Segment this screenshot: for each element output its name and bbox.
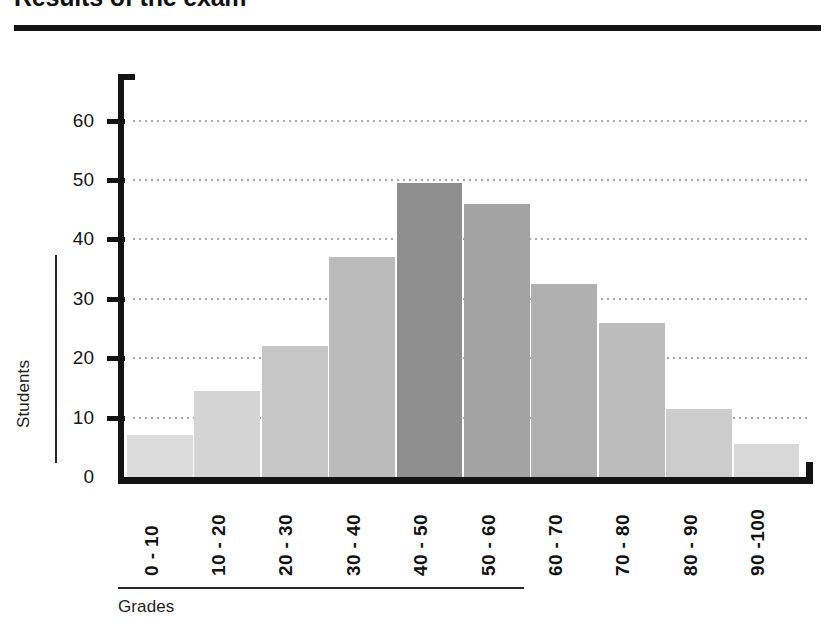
chart-page: Results of the exam 0102030405060 0 - 10… bbox=[0, 0, 835, 631]
x-axis-label-slot: 0 - 10 bbox=[127, 484, 194, 576]
bar bbox=[531, 284, 597, 477]
plot-area: 0102030405060 0 - 1010 - 2020 - 3030 - 4… bbox=[0, 0, 835, 631]
x-axis-label-slot: 90 -100 bbox=[734, 484, 801, 576]
bar bbox=[329, 257, 395, 477]
x-axis-label-slot: 40 - 50 bbox=[397, 484, 464, 576]
bar bbox=[666, 409, 732, 477]
x-axis-tick-label: 10 - 20 bbox=[209, 514, 228, 576]
y-axis-tick bbox=[107, 119, 125, 124]
x-axis-title-divider bbox=[118, 587, 524, 589]
y-axis-title-divider bbox=[55, 255, 57, 463]
x-axis-tick-label: 80 - 90 bbox=[681, 514, 700, 576]
x-axis-tick-label: 20 - 30 bbox=[276, 514, 295, 576]
y-axis-tick bbox=[107, 237, 125, 242]
y-axis-tick bbox=[107, 297, 125, 302]
x-axis-label-slot: 70 - 80 bbox=[599, 484, 666, 576]
x-axis-tick-label: 90 -100 bbox=[748, 509, 767, 576]
y-axis-tick-label: 0 bbox=[48, 467, 94, 486]
x-axis-label-slot: 30 - 40 bbox=[329, 484, 396, 576]
x-axis-label-slot: 60 - 70 bbox=[531, 484, 598, 576]
x-axis-end-cap bbox=[806, 462, 813, 484]
y-axis-title: Students bbox=[14, 360, 34, 428]
bar-series bbox=[127, 74, 801, 477]
y-axis-tick-label: 60 bbox=[48, 111, 94, 130]
x-axis-label-slot: 10 - 20 bbox=[194, 484, 261, 576]
bar bbox=[464, 204, 530, 477]
y-axis-line bbox=[118, 74, 124, 483]
bar bbox=[599, 323, 665, 477]
x-axis-tick-label: 50 - 60 bbox=[479, 514, 498, 576]
bar bbox=[262, 346, 328, 477]
y-axis-tick-label: 40 bbox=[48, 229, 94, 248]
x-axis-labels: 0 - 1010 - 2020 - 3030 - 4040 - 5050 - 6… bbox=[127, 484, 801, 576]
x-axis-label-slot: 50 - 60 bbox=[464, 484, 531, 576]
y-axis-tick-label: 50 bbox=[48, 170, 94, 189]
y-axis-tick bbox=[107, 416, 125, 421]
x-axis-tick-label: 40 - 50 bbox=[411, 514, 430, 576]
x-axis-label-slot: 20 - 30 bbox=[262, 484, 329, 576]
x-axis-tick-label: 30 - 40 bbox=[344, 514, 363, 576]
bar bbox=[127, 435, 193, 477]
x-axis-tick-label: 0 - 10 bbox=[142, 525, 161, 576]
bar bbox=[194, 391, 260, 477]
y-axis-tick bbox=[107, 356, 125, 361]
y-axis-tick bbox=[107, 178, 125, 183]
x-axis-tick-label: 60 - 70 bbox=[546, 514, 565, 576]
x-axis-line bbox=[118, 477, 813, 484]
x-axis-tick-label: 70 - 80 bbox=[613, 514, 632, 576]
bar bbox=[397, 183, 463, 477]
x-axis-title: Grades bbox=[118, 597, 174, 617]
bar bbox=[734, 444, 800, 477]
x-axis-label-slot: 80 - 90 bbox=[666, 484, 733, 576]
